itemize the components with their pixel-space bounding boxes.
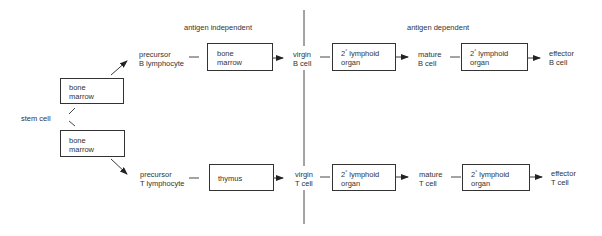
bone-marrow-primary-box: bone marrow: [207, 43, 273, 71]
antigen-dependent-header: antigen dependent: [407, 23, 469, 32]
secondary-lymphoid-organ-b-2: 2° lymphoid organ: [461, 43, 528, 71]
precursor-b-line2: B lymphocyte: [139, 59, 184, 68]
sec-t2-line1: lymphoid: [477, 170, 509, 179]
primary-b-line2: marrow: [217, 58, 242, 67]
precursor-t-line2: T lymphocyte: [140, 179, 184, 188]
virgin-b-cell-label: virgin B cell: [293, 50, 311, 68]
secondary-lymphoid-organ-t-1: 2° lymphoid organ: [332, 164, 396, 191]
precursor-b-line1: precursor: [139, 50, 184, 59]
bone-marrow-lower-line1: bone: [69, 136, 94, 145]
precursor-t-line1: precursor: [140, 170, 184, 179]
bone-marrow-box-lower: bone marrow: [60, 130, 125, 157]
effector-b-line2: B cell: [549, 58, 574, 67]
mature-b-line1: mature: [418, 50, 441, 59]
thymus-label: thymus: [218, 174, 242, 183]
stem-tick-upper: [69, 108, 75, 114]
bone-marrow-box-upper: bone marrow: [60, 78, 124, 104]
virgin-b-line2: B cell: [293, 59, 311, 68]
mature-b-line2: B cell: [418, 59, 441, 68]
sec-b2-line2: organ: [470, 58, 508, 67]
mature-t-line2: T cell: [419, 179, 442, 188]
sec-t2-line2: organ: [471, 179, 509, 188]
virgin-b-line1: virgin: [293, 50, 311, 59]
precursor-t-label: precursor T lymphocyte: [140, 170, 184, 188]
bone-marrow-lower-line2: marrow: [69, 145, 94, 154]
antigen-independent-header: antigen independent: [184, 23, 252, 32]
sec-b1-line2: organ: [341, 58, 379, 67]
thymus-box: thymus: [209, 164, 274, 191]
stem-tick-lower: [69, 121, 75, 126]
effector-b-cell-label: effector B cell: [549, 49, 574, 67]
virgin-t-line1: virgin: [295, 170, 313, 179]
connectors-layer: [0, 0, 602, 236]
mature-b-cell-label: mature B cell: [418, 50, 441, 68]
effector-t-line2: T cell: [551, 178, 576, 187]
mature-t-cell-label: mature T cell: [419, 170, 442, 188]
effector-t-line1: effector: [551, 169, 576, 178]
effector-t-cell-label: effector T cell: [551, 169, 576, 187]
secondary-lymphoid-organ-b-1: 2° lymphoid organ: [332, 43, 396, 71]
arrow-to-precursor-t: [111, 159, 127, 174]
stem-cell-label: stem cell: [21, 114, 51, 123]
sec-b2-line1: lymphoid: [476, 49, 508, 58]
sec-t1-line2: organ: [341, 179, 379, 188]
effector-b-line1: effector: [549, 49, 574, 58]
mature-t-line1: mature: [419, 170, 442, 179]
virgin-t-line2: T cell: [295, 179, 313, 188]
sec-b1-line1: lymphoid: [347, 49, 379, 58]
precursor-b-label: precursor B lymphocyte: [139, 50, 184, 68]
bone-marrow-upper-line2: marrow: [69, 92, 94, 101]
arrow-to-precursor-b: [111, 61, 127, 75]
primary-b-line1: bone: [217, 49, 242, 58]
secondary-lymphoid-organ-t-2: 2° lymphoid organ: [462, 164, 530, 191]
virgin-t-cell-label: virgin T cell: [295, 170, 313, 188]
sec-t1-line1: lymphoid: [347, 170, 379, 179]
bone-marrow-upper-line1: bone: [69, 83, 94, 92]
